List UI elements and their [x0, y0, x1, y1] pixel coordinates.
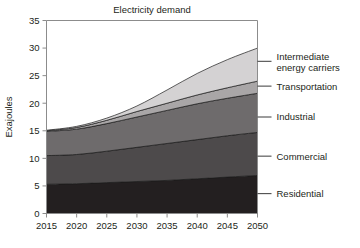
y-tick-label: 25 [29, 70, 40, 81]
y-tick-label: 20 [29, 98, 40, 109]
legend-label: energy carriers [277, 62, 341, 73]
legend-label: Commercial [277, 151, 328, 162]
legend-entry-transportation: Transportation [277, 81, 338, 92]
x-tick-label: 2045 [217, 220, 238, 231]
y-tick-label: 30 [29, 42, 40, 53]
legend-entry-commercial: Commercial [277, 151, 328, 162]
y-tick-label: 15 [29, 125, 40, 136]
legend-label: Industrial [277, 111, 316, 122]
x-tick-label: 2020 [66, 220, 87, 231]
x-tick-label: 2035 [157, 220, 178, 231]
electricity-demand-chart: Electricity demand 05101520253035 201520… [0, 0, 360, 248]
chart-canvas: Electricity demand 05101520253035 201520… [0, 0, 360, 248]
chart-title: Electricity demand [113, 4, 191, 15]
x-tick-label: 2025 [96, 220, 117, 231]
x-tick-label: 2050 [247, 220, 268, 231]
legend-entry-industrial: Industrial [277, 111, 316, 122]
legend-label: Transportation [277, 81, 338, 92]
y-axis-title: Exajoules [3, 96, 14, 137]
legend-entry-residential: Residential [277, 188, 324, 199]
x-tick-label: 2030 [126, 220, 147, 231]
y-tick-label: 5 [34, 180, 39, 191]
y-tick-label: 10 [29, 153, 40, 164]
x-tick-label: 2015 [36, 220, 57, 231]
y-tick-label: 35 [29, 15, 40, 26]
y-tick-label: 0 [34, 208, 39, 219]
legend-label: Intermediate [277, 51, 330, 62]
legend-label: Residential [277, 188, 324, 199]
x-tick-label: 2040 [187, 220, 208, 231]
